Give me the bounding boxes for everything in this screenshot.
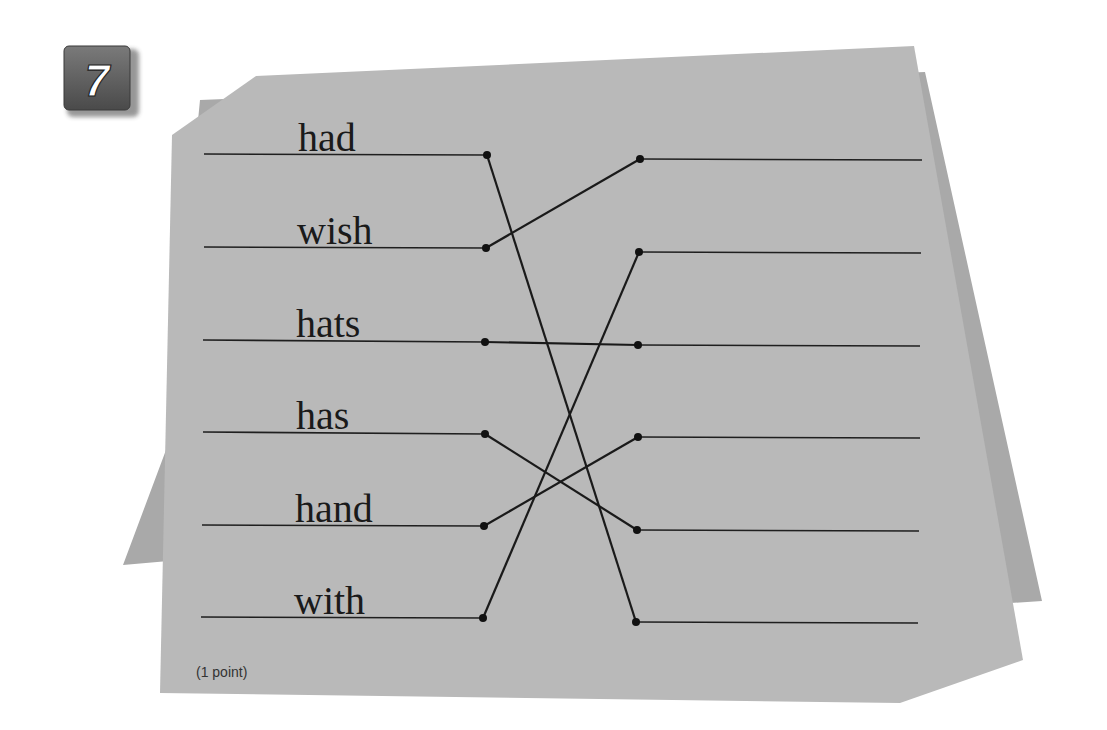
right-dot-4[interactable] <box>634 433 642 441</box>
right-dot-3[interactable] <box>634 341 642 349</box>
left-dot-has[interactable] <box>481 430 489 438</box>
word-hand: hand <box>295 486 373 531</box>
left-dot-had[interactable] <box>483 151 491 159</box>
points-label: (1 point) <box>196 664 247 680</box>
right-dot-6[interactable] <box>632 618 640 626</box>
word-has: has <box>296 393 349 438</box>
left-dot-hand[interactable] <box>480 522 488 530</box>
right-dot-1[interactable] <box>636 155 644 163</box>
exercise-number-badge: 7 <box>64 46 139 117</box>
word-with: with <box>294 578 365 623</box>
paper-front-sheet <box>160 46 1023 703</box>
word-had: had <box>298 115 356 160</box>
matching-exercise: 7 <box>0 0 1107 730</box>
right-dot-5[interactable] <box>633 526 641 534</box>
left-dot-wish[interactable] <box>482 244 490 252</box>
word-hats: hats <box>296 301 360 346</box>
left-dot-hats[interactable] <box>481 338 489 346</box>
exercise-number: 7 <box>85 56 112 105</box>
right-dot-2[interactable] <box>635 248 643 256</box>
word-wish: wish <box>297 208 373 253</box>
left-dot-with[interactable] <box>479 614 487 622</box>
